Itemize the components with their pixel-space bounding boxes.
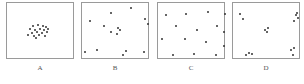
point-marker: [251, 53, 253, 55]
point-marker: [224, 13, 226, 15]
point-marker: [215, 54, 217, 56]
panel-label-a: A: [5, 64, 75, 72]
point-marker: [39, 28, 41, 30]
point-marker: [42, 25, 44, 27]
point-marker: [293, 20, 295, 22]
point-marker: [295, 14, 297, 16]
point-marker: [119, 29, 121, 31]
point-marker: [184, 38, 186, 40]
point-marker: [290, 49, 292, 51]
point-marker: [161, 38, 163, 40]
point-marker: [27, 34, 29, 36]
point-marker: [32, 25, 34, 27]
point-marker: [223, 45, 225, 47]
point-marker: [38, 34, 40, 36]
point-marker: [89, 20, 91, 22]
point-marker: [248, 52, 250, 54]
point-marker: [147, 23, 149, 25]
point-marker: [110, 12, 112, 14]
point-marker: [239, 13, 241, 15]
point-marker: [266, 31, 268, 33]
point-marker: [96, 49, 98, 51]
point-marker: [31, 32, 33, 34]
point-marker: [46, 31, 48, 33]
point-marker: [125, 50, 127, 52]
point-marker: [267, 27, 269, 29]
panel-b: [81, 2, 149, 59]
point-marker: [185, 13, 187, 15]
point-marker: [292, 54, 294, 56]
panel-label-b: B: [80, 64, 150, 72]
panel-c: [157, 2, 225, 59]
point-marker: [175, 25, 177, 27]
point-marker: [116, 33, 118, 35]
point-marker: [47, 28, 49, 30]
point-marker: [293, 47, 295, 49]
point-marker: [130, 7, 132, 9]
point-marker: [29, 28, 31, 30]
point-marker: [35, 37, 37, 39]
point-marker: [165, 14, 167, 16]
point-marker: [103, 25, 105, 27]
panel-a: [6, 2, 74, 59]
point-marker: [144, 18, 146, 20]
point-marker: [205, 41, 207, 43]
point-marker: [193, 53, 195, 55]
panel-label-d: D: [231, 64, 301, 72]
point-marker: [84, 51, 86, 53]
point-marker: [37, 24, 39, 26]
point-marker: [43, 29, 45, 31]
point-marker: [41, 32, 43, 34]
point-marker: [110, 31, 112, 33]
point-marker: [207, 11, 209, 13]
point-marker: [297, 17, 299, 19]
point-marker: [36, 31, 38, 33]
point-marker: [223, 31, 225, 33]
point-marker: [44, 35, 46, 37]
panel-label-c: C: [156, 64, 226, 72]
point-marker: [245, 54, 247, 56]
panel-d: [232, 2, 300, 59]
point-marker: [296, 12, 298, 14]
point-marker: [122, 54, 124, 56]
point-marker: [216, 25, 218, 27]
point-marker: [172, 54, 174, 56]
point-marker: [196, 29, 198, 31]
point-marker: [143, 51, 145, 53]
point-marker: [242, 18, 244, 20]
